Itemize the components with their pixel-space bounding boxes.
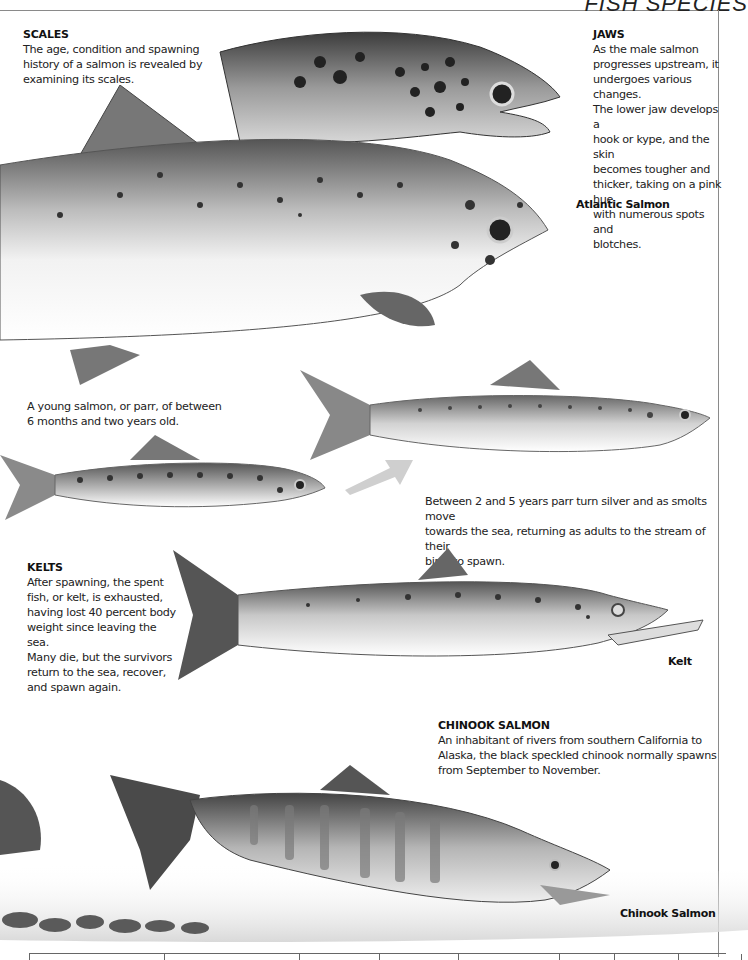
caption-heading: JAWS xyxy=(593,27,723,42)
caption-kelts: KELTS After spawning, the spent fish, or… xyxy=(27,560,177,695)
parr-illustration xyxy=(0,430,330,540)
caption-heading: CHINOOK SALMON xyxy=(438,718,718,733)
label-kelt: Kelt xyxy=(668,655,692,668)
caption-parr: A young salmon, or parr, of between 6 mo… xyxy=(27,399,277,429)
label-atlantic-salmon: Atlantic Salmon xyxy=(576,198,670,211)
growth-arrow-icon xyxy=(345,450,415,495)
caption-scales: SCALES The age, condition and spawning h… xyxy=(23,27,243,87)
atlantic-salmon-illustration xyxy=(0,85,580,390)
kelt-illustration xyxy=(168,545,713,680)
caption-jaws: JAWS As the male salmon progresses upstr… xyxy=(593,27,723,252)
chinook-salmon-illustration xyxy=(0,760,748,950)
page-title: FISH SPECIES xyxy=(584,0,748,17)
table-top-edge xyxy=(29,953,726,958)
caption-heading: KELTS xyxy=(27,560,177,575)
label-chinook-salmon: Chinook Salmon xyxy=(620,907,716,920)
caption-heading: SCALES xyxy=(23,27,243,42)
